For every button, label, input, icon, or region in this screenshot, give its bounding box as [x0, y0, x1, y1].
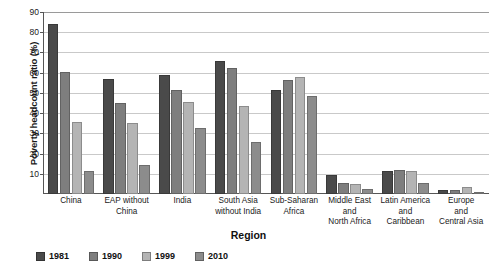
bar[interactable]: [462, 187, 473, 194]
legend: 1981199019992010: [36, 251, 228, 261]
x-tick-label: Sub-SaharanAfrica: [266, 196, 322, 228]
bar[interactable]: [283, 80, 294, 194]
plot-area: 102030405060708090: [43, 12, 489, 194]
bar-groups: [43, 12, 489, 194]
y-tick-label: 40: [30, 108, 39, 118]
bar[interactable]: [183, 102, 194, 194]
bar[interactable]: [406, 171, 417, 194]
bar[interactable]: [115, 103, 126, 194]
x-tick-label: Latin AmericaandCaribbean: [378, 196, 434, 228]
legend-item[interactable]: 2010: [195, 251, 228, 261]
bar[interactable]: [438, 190, 449, 194]
x-tick-label: Middle EastandNorth Africa: [322, 196, 378, 228]
bar[interactable]: [239, 106, 250, 194]
y-tick-label: 10: [30, 169, 39, 179]
y-tick-label: 90: [30, 7, 39, 17]
bar[interactable]: [139, 165, 150, 194]
bar[interactable]: [350, 184, 361, 194]
poverty-headcount-bar-chart: Poverty headcount ratio (%) 102030405060…: [0, 0, 497, 275]
bar-group: [43, 12, 99, 194]
legend-label: 1999: [155, 251, 175, 261]
legend-swatch: [142, 252, 151, 261]
bar[interactable]: [251, 142, 262, 194]
bar-group: [210, 12, 266, 194]
y-tick-label: 80: [30, 27, 39, 37]
bar[interactable]: [72, 122, 83, 194]
bar[interactable]: [48, 24, 59, 194]
bar-group: [378, 12, 434, 194]
x-tick-label: South Asiawithout India: [210, 196, 266, 228]
legend-label: 2010: [208, 251, 228, 261]
y-tick-label: 30: [30, 128, 39, 138]
legend-item[interactable]: 1981: [36, 251, 69, 261]
x-tick-label: China: [43, 196, 99, 228]
bar-group: [322, 12, 378, 194]
bar[interactable]: [326, 175, 337, 194]
bar-group: [99, 12, 155, 194]
legend-label: 1990: [102, 251, 122, 261]
x-tick-label: India: [155, 196, 211, 228]
bar[interactable]: [307, 96, 318, 194]
bar[interactable]: [271, 90, 282, 194]
bar-group: [266, 12, 322, 194]
bar[interactable]: [338, 183, 349, 194]
legend-label: 1981: [49, 251, 69, 261]
bar[interactable]: [227, 68, 238, 194]
legend-swatch: [89, 252, 98, 261]
bar[interactable]: [215, 61, 226, 194]
y-tick-label: 70: [30, 47, 39, 57]
x-tick-label: EuropeandCentral Asia: [433, 196, 489, 228]
y-tick-label: 50: [30, 88, 39, 98]
bar[interactable]: [159, 75, 170, 194]
bar[interactable]: [394, 170, 405, 194]
bar[interactable]: [362, 189, 373, 194]
bar[interactable]: [84, 171, 95, 194]
bar[interactable]: [195, 128, 206, 194]
bar[interactable]: [127, 123, 138, 194]
bar-group: [155, 12, 211, 194]
x-tick-label: EAP withoutChina: [99, 196, 155, 228]
legend-swatch: [195, 252, 204, 261]
x-axis-tick-labels: ChinaEAP withoutChinaIndiaSouth Asiawith…: [43, 196, 489, 228]
bar[interactable]: [171, 90, 182, 194]
legend-item[interactable]: 1999: [142, 251, 175, 261]
bar[interactable]: [295, 77, 306, 194]
legend-item[interactable]: 1990: [89, 251, 122, 261]
x-axis-title: Region: [0, 229, 497, 241]
bar[interactable]: [418, 183, 429, 194]
bar[interactable]: [103, 79, 114, 194]
bar[interactable]: [450, 190, 461, 194]
y-tick-label: 20: [30, 149, 39, 159]
y-tick-label: 60: [30, 68, 39, 78]
bar[interactable]: [474, 192, 485, 194]
bar[interactable]: [382, 171, 393, 194]
bar[interactable]: [60, 72, 71, 194]
bar-group: [433, 12, 489, 194]
legend-swatch: [36, 252, 45, 261]
